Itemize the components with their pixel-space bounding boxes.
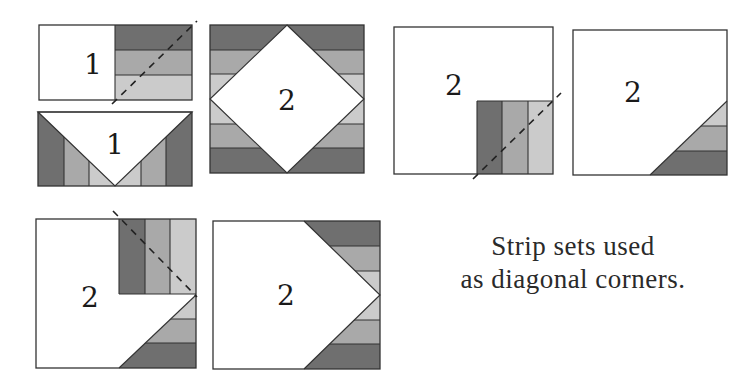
strip-light [115, 75, 192, 100]
unit-label: 1 [84, 48, 102, 81]
unit-2c: 2 [36, 211, 200, 369]
unit-label: 2 [624, 76, 642, 109]
caption-line-1: Strip sets used [491, 231, 655, 261]
caption-line-2: as diagonal corners. [460, 264, 685, 294]
unit-2b: 2 [573, 30, 730, 176]
caption: Strip sets used as diagonal corners. [460, 231, 685, 294]
quilt-diagram: 1 1 2 [0, 0, 751, 371]
unit-label: 2 [278, 84, 296, 117]
unit-label: 2 [445, 69, 463, 102]
unit-1b: 1 [38, 112, 192, 186]
unit-1a: 1 [39, 21, 197, 104]
unit-2-diamond: 2 [210, 25, 364, 173]
unit-label: 2 [81, 281, 99, 314]
unit-2a: 2 [394, 27, 561, 179]
unit-label: 2 [277, 279, 295, 312]
white-square [39, 26, 115, 100]
unit-2d: 2 [213, 221, 382, 369]
unit-label: 1 [106, 128, 124, 161]
